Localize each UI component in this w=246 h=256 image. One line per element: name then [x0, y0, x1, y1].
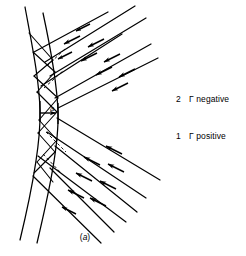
- legend-index-2: 2: [176, 94, 189, 104]
- figure-root: a 2 Γ negative 1 Γ positive (a): [0, 0, 246, 256]
- legend-row-gamma-negative: 2 Γ negative: [176, 94, 229, 104]
- legend-index-1: 1: [176, 131, 189, 141]
- legend-label-gamma-positive: Γ positive: [189, 131, 226, 141]
- legend-label-gamma-negative: Γ negative: [189, 94, 229, 104]
- figure-caption: (a): [0, 232, 170, 242]
- legend: 2 Γ negative 1 Γ positive: [0, 0, 246, 256]
- caption-close-paren: ): [87, 232, 90, 242]
- legend-row-gamma-positive: 1 Γ positive: [176, 131, 226, 141]
